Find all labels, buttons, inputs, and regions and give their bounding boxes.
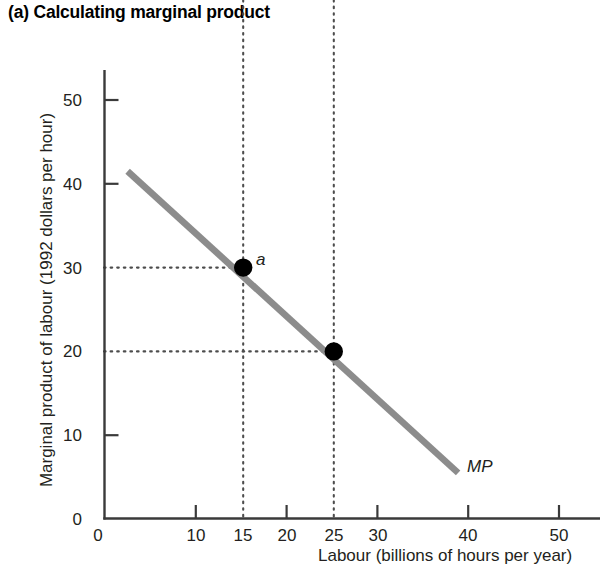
- chart-plot-area: [0, 0, 613, 570]
- x-tick-label-15: 15: [234, 527, 253, 544]
- mp-curve-line: [128, 171, 459, 473]
- x-tick-label-25: 25: [325, 527, 344, 544]
- x-tick-label-30: 30: [369, 527, 388, 544]
- annotation-point-a: a: [256, 250, 265, 270]
- data-point-b: [325, 342, 343, 360]
- x-tick-label-50: 50: [550, 527, 569, 544]
- figure-panel-a: (a) Calculating marginal product 0 10 20…: [0, 0, 613, 570]
- x-tick-label-20: 20: [278, 527, 297, 544]
- data-point-a: [234, 258, 252, 276]
- x-tick-label-10: 10: [187, 527, 206, 544]
- x-tick-label-0: 0: [93, 527, 102, 544]
- y-axis-title: Marginal product of labour (1992 dollars…: [37, 90, 57, 510]
- x-tick-label-40: 40: [459, 527, 478, 544]
- y-tick-label-0: 0: [36, 511, 82, 528]
- curve-label-mp: MP: [467, 457, 493, 477]
- x-axis-title: Labour (billions of hours per year): [318, 546, 572, 566]
